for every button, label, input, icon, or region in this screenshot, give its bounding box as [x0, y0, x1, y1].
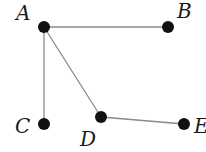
- node-label-a: A: [14, 1, 30, 25]
- node-a: [38, 21, 50, 33]
- node-d: [95, 111, 107, 123]
- node-label-e: E: [193, 114, 206, 138]
- node-b: [162, 21, 174, 33]
- edges-group: [44, 27, 184, 124]
- node-label-b: B: [176, 0, 192, 23]
- graph-diagram: ABCDE: [0, 0, 206, 152]
- node-c: [38, 118, 50, 130]
- graph-svg: ABCDE: [0, 0, 206, 152]
- node-e: [178, 118, 190, 130]
- nodes-group: [38, 21, 190, 130]
- edge-d-e: [101, 117, 184, 124]
- edge-a-d: [44, 27, 101, 117]
- node-label-d: D: [79, 127, 96, 151]
- node-label-c: C: [15, 114, 30, 138]
